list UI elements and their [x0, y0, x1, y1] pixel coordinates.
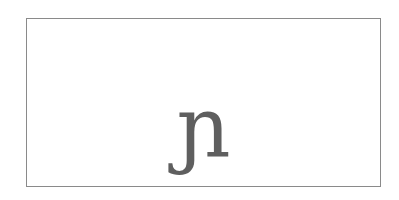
glyph-character: ɲ: [27, 85, 380, 169]
glyph-card: ɲ: [26, 18, 381, 187]
